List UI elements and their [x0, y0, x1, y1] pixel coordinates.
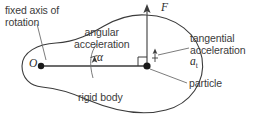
label-force-symbol: F [161, 2, 168, 14]
label-a-t-symbol: at [190, 56, 198, 72]
leader-line-fixed-axis [37, 24, 46, 60]
leader-line-particle [150, 69, 187, 83]
physics-diagram: fixed axis of rotation angular accelerat… [0, 0, 253, 124]
label-alpha-symbol: α [97, 52, 103, 64]
pivot-point-dot [38, 63, 44, 69]
label-a-t-subscript: t [196, 61, 198, 70]
label-tangential-acceleration: tangential acceleration [190, 33, 245, 56]
label-rigid-body: rigid body [78, 92, 123, 104]
label-angular-acceleration: angular acceleration [74, 27, 129, 50]
label-fixed-axis-of-rotation: fixed axis of rotation [5, 5, 59, 28]
particle-point-dot [143, 62, 150, 69]
leader-line-tangential [158, 48, 189, 55]
label-particle: particle [189, 78, 222, 90]
label-origin-symbol: O [29, 58, 37, 70]
